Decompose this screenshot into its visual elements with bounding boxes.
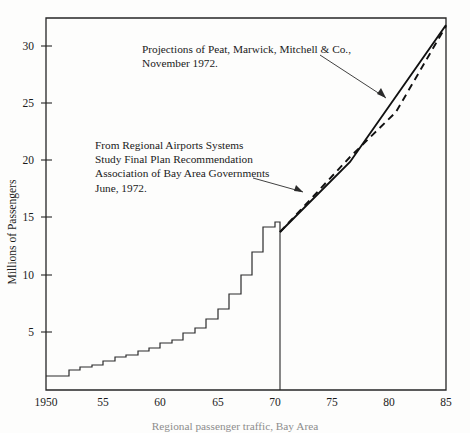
annotation-projections-note: Projections of Peat, Marwick, Mitchell &…: [142, 42, 351, 70]
ytick-label-25: 25: [23, 97, 35, 109]
historical-step-series: [46, 222, 280, 376]
xtick-label-70: 70: [269, 396, 281, 408]
xtick-label-75: 75: [326, 396, 338, 408]
y-axis-title: Millions of Passengers: [6, 179, 19, 284]
figure-caption: Regional passenger traffic, Bay Area: [0, 420, 470, 433]
xtick-label-55: 55: [97, 396, 109, 408]
ytick-label-5: 5: [28, 326, 34, 338]
ytick-label-20: 20: [23, 154, 35, 166]
plot-frame: [46, 18, 446, 390]
xtick-label-60: 60: [154, 396, 166, 408]
ytick-label-10: 10: [23, 269, 35, 281]
xtick-label-65: 65: [212, 396, 224, 408]
ytick-label-30: 30: [23, 40, 35, 52]
xtick-label-80: 80: [383, 396, 395, 408]
xtick-label-1950: 1950: [35, 396, 58, 408]
annotation-abag-note: From Regional Airports Systems Study Fin…: [95, 138, 269, 195]
xtick-label-85: 85: [440, 396, 452, 408]
ytick-label-15: 15: [23, 211, 35, 223]
figure-container: 30 25 20 15 10 5 Millions of Passengers …: [0, 0, 470, 433]
